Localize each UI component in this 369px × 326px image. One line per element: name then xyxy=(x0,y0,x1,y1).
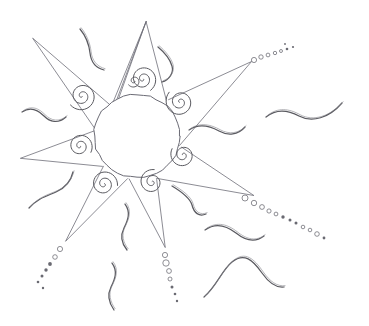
squiggle-left-lower-stroke xyxy=(29,172,73,208)
trail-southwest-dot-3 xyxy=(44,268,47,271)
squiggle-bottom-right xyxy=(205,224,265,240)
trail-east xyxy=(242,195,325,239)
trail-east-dot-2 xyxy=(260,205,265,210)
squiggle-far-right-echo xyxy=(267,102,343,118)
squiggle-vert-upper xyxy=(122,203,130,250)
trail-southwest-dot-1 xyxy=(53,255,58,260)
trail-east-dot-0 xyxy=(242,195,248,201)
ray-southwest xyxy=(66,166,128,241)
squiggle-bottom-mid xyxy=(172,185,207,215)
ray-south xyxy=(129,179,165,248)
ray-northwest xyxy=(33,38,110,128)
trail-south-dot-5 xyxy=(174,293,177,296)
trail-south-dot-3 xyxy=(168,277,172,281)
trail-east-dot-6 xyxy=(289,219,292,222)
trail-south-dot-4 xyxy=(171,286,174,289)
trail-northeast-dot-1 xyxy=(259,55,263,59)
trail-southwest-dot-2 xyxy=(48,262,52,266)
squiggle-lower-right-echo xyxy=(205,256,285,295)
trail-south-dot-2 xyxy=(167,269,172,274)
trail-south xyxy=(162,252,178,302)
trail-southwest xyxy=(37,246,63,289)
trail-northeast-dot-6 xyxy=(292,46,294,48)
trail-east-dot-10 xyxy=(315,232,320,237)
trail-southwest-dot-0 xyxy=(57,246,62,251)
squiggle-vert-lower-stroke xyxy=(109,263,116,310)
trail-southwest-dot-6 xyxy=(42,287,44,289)
trail-east-dot-8 xyxy=(301,225,305,229)
trail-south-dot-0 xyxy=(162,252,167,257)
spiral-ray-north xyxy=(133,68,155,90)
trail-southwest-dot-4 xyxy=(41,275,44,278)
trail-northeast-dot-2 xyxy=(266,53,270,57)
trail-east-dot-9 xyxy=(308,228,312,232)
ray-west xyxy=(20,130,102,166)
squiggle-left-upper-stroke xyxy=(22,109,66,121)
trail-east-dot-7 xyxy=(295,222,298,225)
trail-east-dot-3 xyxy=(267,209,271,213)
dot-trails-group xyxy=(37,43,326,302)
ray-northeast xyxy=(169,62,252,146)
trail-east-dot-5 xyxy=(281,215,284,218)
squiggle-left-lower xyxy=(29,171,74,208)
trail-northeast-dot-0 xyxy=(251,57,256,62)
trail-northeast-dot-4 xyxy=(280,50,283,53)
squiggle-lower-right-stroke xyxy=(204,258,284,297)
ray-north-left xyxy=(112,21,146,104)
squiggle-bottom-right-echo xyxy=(206,224,265,239)
trail-east-dot-11 xyxy=(323,237,326,240)
squiggle-top-left-stroke xyxy=(80,29,104,70)
squiggle-vert-upper-echo xyxy=(123,203,130,249)
trail-northeast-dot-3 xyxy=(273,51,276,54)
spiral-ray-northwest xyxy=(71,85,95,109)
squiggle-bottom-mid-echo xyxy=(173,185,207,214)
squiggle-vert-lower-echo xyxy=(110,262,117,309)
squiggle-bottom-right-stroke xyxy=(205,226,264,241)
squiggle-left-upper xyxy=(22,108,67,122)
trail-northeast-dot-7 xyxy=(284,43,286,45)
spiral-ray-southwest xyxy=(94,172,118,193)
sketch-canvas xyxy=(0,0,369,326)
trail-northeast-dot-5 xyxy=(286,48,289,51)
trail-south-dot-1 xyxy=(163,260,169,266)
trail-south-dot-6 xyxy=(176,300,178,302)
squiggle-lower-right xyxy=(204,256,285,297)
spiral-ray-west xyxy=(71,135,92,153)
sun-drawing xyxy=(0,0,369,326)
squiggle-far-right xyxy=(266,102,343,119)
squiggle-vert-lower xyxy=(109,262,117,310)
squiggle-bottom-mid-stroke xyxy=(172,186,206,215)
trail-east-dot-1 xyxy=(251,200,256,205)
trail-southwest-dot-5 xyxy=(37,281,40,284)
trail-northeast xyxy=(251,43,294,63)
squiggle-right-mid-stroke xyxy=(189,126,245,134)
squiggle-top-left xyxy=(80,28,105,70)
squiggle-right-mid xyxy=(189,125,246,134)
trail-east-dot-4 xyxy=(274,212,278,216)
